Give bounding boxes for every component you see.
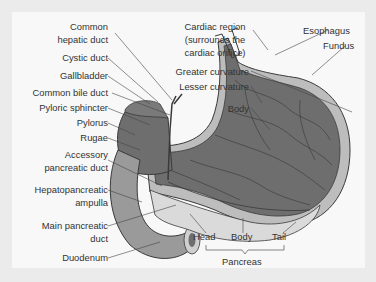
label-cardiac-region: Cardiac region (surrounds the cardiac or…	[172, 20, 258, 59]
label-esophagus: Esophagus	[303, 24, 350, 37]
label-greater-curvature: Greater curvature	[176, 65, 249, 78]
label-pancreas-tail: Tail	[272, 230, 286, 243]
label-rugae: Rugae	[80, 131, 108, 144]
label-accessory-pancreatic-duct: Accessory pancreatic duct	[44, 148, 108, 174]
pancreas-brace	[206, 245, 284, 254]
label-pancreas-head: Head	[193, 230, 215, 243]
label-fundus: Fundus	[323, 39, 354, 52]
label-gallbladder: Gallbladder	[60, 69, 108, 82]
label-common-hepatic-duct: Common hepatic duct	[57, 20, 108, 46]
label-lesser-curvature: Lesser curvature	[179, 80, 249, 93]
label-cystic-duct: Cystic duct	[62, 51, 108, 64]
label-main-pancreatic-duct: Main pancreatic duct	[42, 219, 108, 245]
label-pyloric-sphincter: Pyloric sphincter	[39, 101, 108, 114]
label-pancreas: Pancreas	[222, 255, 262, 268]
label-stomach-body: Body	[228, 102, 249, 115]
label-hepatopancreatic-ampulla: Hepatopancreatic ampulla	[35, 183, 109, 209]
label-pylorus: Pylorus	[77, 116, 108, 129]
label-common-bile-duct: Common bile duct	[32, 86, 108, 99]
label-duodenum: Duodenum	[62, 251, 108, 264]
label-pancreas-body: Body	[231, 230, 252, 243]
